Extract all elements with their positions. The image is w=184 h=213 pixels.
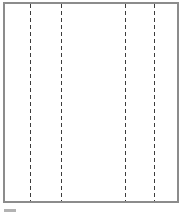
fold-line (61, 4, 62, 201)
fold-line (154, 4, 155, 201)
fold-line (125, 4, 126, 201)
cropped-shape-fragment (4, 209, 16, 212)
fold-line (30, 4, 31, 201)
figure-canvas (0, 0, 184, 213)
